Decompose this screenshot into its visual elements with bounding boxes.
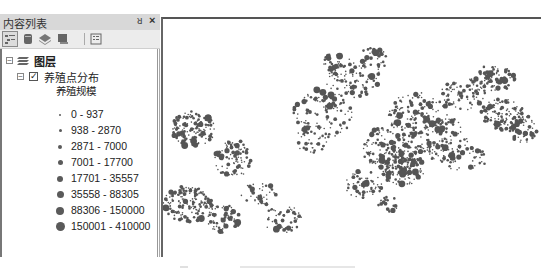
farm-distribution-points <box>163 19 541 257</box>
legend-class-label: 35558 - 88305 <box>71 188 139 200</box>
legend-symbol-icon <box>59 114 61 116</box>
layers-group-label[interactable]: 图层 <box>34 53 56 69</box>
layers-icon <box>17 54 31 66</box>
toolbar-separator <box>84 33 85 45</box>
legend-class-label: 17701 - 35557 <box>71 172 139 184</box>
legend-class-label: 7001 - 17700 <box>71 156 133 168</box>
drawing-order-icon <box>3 32 17 46</box>
legend-class-label: 938 - 2870 <box>71 124 121 136</box>
table-of-contents-panel: 内容列表 ᴚ × <box>0 14 160 257</box>
legend-symbol-icon <box>56 207 64 215</box>
options-list-icon <box>89 32 103 46</box>
legend-symbol-icon <box>58 160 63 165</box>
layers-visibility-icon <box>38 32 52 46</box>
toc-toolbar <box>0 30 160 49</box>
collapse-layers-toggle[interactable]: − <box>6 57 13 64</box>
legend-field-heading: 养殖规模 <box>56 83 96 98</box>
legend-symbol-icon <box>57 176 63 182</box>
legend-class-label: 2871 - 7000 <box>71 140 127 152</box>
pin-icon[interactable]: ᴚ <box>137 15 142 26</box>
toc-title: 内容列表 <box>3 15 47 31</box>
list-by-drawing-order-button[interactable] <box>3 32 17 46</box>
list-by-visibility-button[interactable] <box>38 32 52 46</box>
legend-class-label: 88306 - 150000 <box>71 204 145 216</box>
legend-class-label: 0 - 937 <box>71 108 104 120</box>
options-button[interactable] <box>89 32 103 46</box>
figure-caption-cropped <box>180 266 360 272</box>
map-view[interactable] <box>161 17 541 257</box>
selection-icon <box>56 32 70 46</box>
legend-symbol-icon <box>57 191 64 198</box>
legend-symbol-icon <box>56 222 65 231</box>
toc-header: 内容列表 ᴚ × <box>0 14 160 31</box>
list-by-selection-button[interactable] <box>56 32 70 46</box>
legend-symbol-icon <box>58 145 62 149</box>
legend-symbol-icon <box>59 129 62 132</box>
layer-visibility-checkbox[interactable]: ✓ <box>29 72 38 81</box>
collapse-layer-toggle[interactable]: − <box>17 73 24 80</box>
database-icon <box>21 32 35 46</box>
list-by-source-button[interactable] <box>21 32 35 46</box>
legend-class-label: 150001 - 410000 <box>71 220 150 232</box>
close-icon[interactable]: × <box>149 14 155 26</box>
